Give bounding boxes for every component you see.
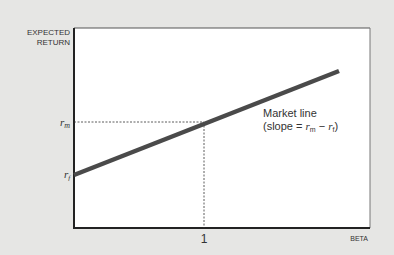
market-line-label: Market line — [263, 107, 317, 119]
chart: EXPECTED RETURN rm rf 1 BETA Market line… — [0, 0, 394, 255]
rf-tick-label: rf — [64, 168, 71, 182]
y-axis-label-line1: EXPECTED — [27, 28, 70, 37]
y-axis-label-line2: RETURN — [37, 38, 71, 47]
rm-tick-label: rm — [60, 116, 70, 130]
slope-label: (slope = rm − rf) — [263, 120, 338, 133]
x-axis-label: BETA — [350, 235, 368, 242]
beta-one-tick-label: 1 — [201, 232, 208, 246]
